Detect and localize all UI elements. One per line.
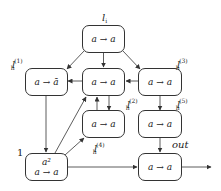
label-out: out [172, 140, 188, 150]
edge-one-lh4 [65, 138, 84, 155]
node-li: a → a [82, 25, 125, 53]
label-lh3-sup: (3) [179, 57, 188, 64]
node-lh2: a → a [82, 68, 125, 96]
label-lh4-sup: (4) [96, 141, 105, 148]
label-lh5-sup: (5) [179, 97, 188, 104]
label-lh5: l(5)h [177, 96, 180, 113]
node-lh3-text: a → a [148, 77, 172, 87]
node-lh1-text: a → ā [35, 77, 59, 87]
label-lh4: l(4)h [94, 140, 97, 157]
edge-li-lh1 [67, 51, 84, 69]
node-lh3: a → a [138, 68, 182, 96]
node-lh5-text: a → a [148, 119, 172, 129]
label-lh4-sub: h [93, 148, 97, 155]
label-lh2: l(2)h [127, 96, 130, 113]
label-out-text: out [172, 139, 188, 150]
edge-li-lh3 [123, 51, 140, 69]
label-li: li [102, 13, 107, 26]
node-lh1: a → ā [25, 68, 68, 96]
node-out-text: a → a [148, 162, 172, 172]
label-lh3: l(3)h [177, 56, 180, 73]
label-lh1: l(1)h [12, 56, 15, 73]
node-one-text: a → a [35, 167, 59, 177]
label-lh1-sup: (1) [14, 57, 23, 64]
label-lh1-sub: h [11, 64, 15, 71]
node-out: a → a [138, 153, 182, 181]
node-lh4-text: a → a [92, 119, 116, 129]
label-one-text: 1 [17, 147, 23, 158]
node-li-text: a → a [92, 34, 116, 44]
label-lh2-sub: h [126, 104, 130, 111]
node-lh4: a → a [82, 110, 125, 138]
label-lh3-sub: h [176, 64, 180, 71]
label-lh2-sup: (2) [129, 97, 138, 104]
label-one: 1 [17, 148, 23, 158]
label-li-sub: i [105, 17, 107, 24]
node-lh2-text: a → a [92, 77, 116, 87]
node-lh5: a → a [138, 110, 182, 138]
node-one-text-top: a² [42, 157, 51, 167]
label-lh5-sub: h [176, 104, 180, 111]
node-one: a² a → a [25, 153, 68, 181]
